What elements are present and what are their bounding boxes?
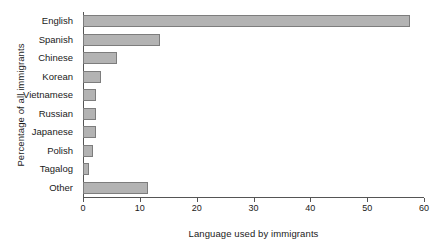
- bar-chart: Percentage of all immigrants EnglishSpan…: [0, 0, 440, 249]
- bar: [83, 15, 410, 27]
- category-label: Other: [49, 179, 73, 198]
- bar: [83, 108, 96, 120]
- x-axis-title: Language used by immigrants: [83, 228, 424, 239]
- bar-row: [83, 105, 424, 124]
- bar-row: [83, 49, 424, 68]
- bar-row: [83, 179, 424, 198]
- bar-row: [83, 86, 424, 105]
- bar-row: [83, 31, 424, 50]
- x-tick-mark: [367, 198, 368, 202]
- x-tick-label: 0: [68, 203, 98, 213]
- x-tick-label: 30: [239, 203, 269, 213]
- bar: [83, 52, 117, 64]
- bar: [83, 34, 160, 46]
- bar: [83, 145, 93, 157]
- x-tick-label: 10: [125, 203, 155, 213]
- x-tick-mark: [83, 198, 84, 202]
- category-label: Tagalog: [40, 160, 73, 179]
- x-axis-ticks: 0102030405060: [83, 198, 424, 220]
- category-label: English: [42, 12, 73, 31]
- bar-row: [83, 160, 424, 179]
- bar: [83, 71, 101, 83]
- x-tick-mark: [140, 198, 141, 202]
- bar: [83, 89, 96, 101]
- category-label: Russian: [39, 105, 73, 124]
- category-label: Spanish: [39, 31, 73, 50]
- plot-area: [83, 12, 424, 197]
- category-axis-labels: EnglishSpanishChineseKoreanVietnameseRus…: [0, 12, 78, 197]
- category-label: Japanese: [32, 123, 73, 142]
- x-tick-label: 50: [352, 203, 382, 213]
- x-tick-mark: [197, 198, 198, 202]
- bar-row: [83, 142, 424, 161]
- category-label: Korean: [42, 68, 73, 87]
- x-tick-mark: [310, 198, 311, 202]
- bar: [83, 182, 148, 194]
- x-tick-mark: [254, 198, 255, 202]
- x-tick-mark: [424, 198, 425, 202]
- category-label: Vietnamese: [23, 86, 73, 105]
- x-tick-label: 20: [182, 203, 212, 213]
- bar: [83, 163, 89, 175]
- x-tick-label: 60: [409, 203, 439, 213]
- category-label: Polish: [47, 142, 73, 161]
- bar: [83, 126, 96, 138]
- bar-row: [83, 68, 424, 87]
- x-tick-label: 40: [295, 203, 325, 213]
- category-label: Chinese: [38, 49, 73, 68]
- bar-row: [83, 123, 424, 142]
- bar-row: [83, 12, 424, 31]
